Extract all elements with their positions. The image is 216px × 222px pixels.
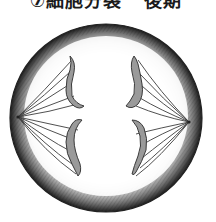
spindle-pole-left — [16, 115, 19, 118]
spindle-pole-right — [187, 120, 190, 123]
anaphase-cell-diagram — [0, 0, 216, 222]
